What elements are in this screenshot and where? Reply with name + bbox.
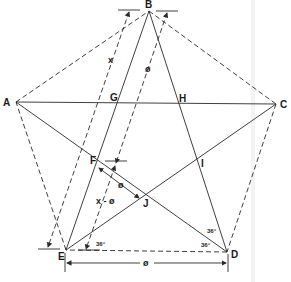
point-label-f: F: [90, 155, 96, 166]
point-label-g: G: [110, 92, 118, 103]
label-phi-fj: ø: [118, 180, 124, 190]
pentagon-diagram: A B C D E F G H I J x ø x - ø ø ø 36° 36…: [0, 0, 291, 282]
angle-label-e: 36°: [96, 241, 106, 247]
vertex-label-c: C: [280, 99, 287, 110]
point-label-h: H: [179, 93, 186, 104]
angle-label-d-lower: 36°: [201, 242, 211, 248]
label-x: x: [108, 55, 113, 65]
vertex-label-b: B: [145, 0, 152, 10]
vertex-label-d: D: [231, 249, 238, 260]
point-label-i: I: [201, 158, 204, 169]
vertex-label-e: E: [58, 251, 65, 262]
label-phi-ed: ø: [143, 258, 149, 268]
point-label-j: J: [143, 198, 149, 209]
vertex-label-a: A: [3, 97, 10, 108]
label-x-minus-phi: x - ø: [96, 196, 115, 206]
pentagram-diagonals: [16, 11, 276, 252]
angle-label-d-upper: 36°: [207, 228, 217, 234]
dimension-x: [38, 10, 140, 249]
label-phi-top: ø: [145, 64, 151, 74]
scan-artifact: [251, 0, 255, 282]
